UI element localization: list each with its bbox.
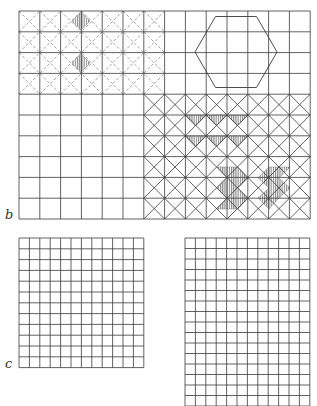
hexagon-outline	[195, 17, 277, 88]
hatched-triangle	[206, 115, 227, 126]
figure-canvas	[0, 0, 317, 406]
panel-label-c: c	[5, 357, 12, 370]
panel-label-b: b	[5, 208, 13, 221]
hatched-triangle	[227, 136, 248, 147]
panel-c-left-grid	[19, 238, 144, 368]
panel-c-right-grid	[185, 238, 310, 406]
square-grid	[19, 11, 310, 219]
hatched-triangle	[227, 115, 248, 126]
hatched-triangle	[185, 115, 206, 126]
hatched-triangle	[206, 136, 227, 147]
panel-b	[19, 11, 310, 219]
